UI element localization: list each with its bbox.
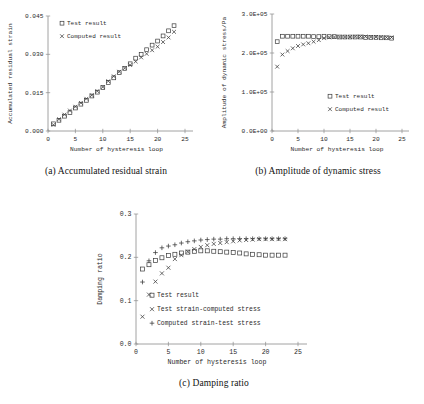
svg-text:3.0E+05: 3.0E+05 bbox=[242, 11, 268, 18]
svg-text:25: 25 bbox=[294, 349, 302, 356]
chart-c-svg: 0.00.10.20.30510152025Number of hysteres… bbox=[88, 196, 340, 378]
panel-accumulated-residual-strain: 0.0000.0150.0300.0450510152025Number of … bbox=[0, 0, 212, 190]
series-test-result bbox=[140, 249, 287, 271]
svg-text:Test strain-computed stress: Test strain-computed stress bbox=[157, 306, 261, 313]
svg-text:0: 0 bbox=[134, 349, 138, 356]
svg-text:0.1: 0.1 bbox=[120, 298, 132, 305]
svg-text:20: 20 bbox=[154, 136, 162, 143]
svg-text:0.3: 0.3 bbox=[120, 211, 132, 218]
svg-text:15: 15 bbox=[229, 349, 237, 356]
svg-text:0.045: 0.045 bbox=[25, 13, 44, 20]
svg-text:0.030: 0.030 bbox=[25, 51, 44, 58]
svg-text:Computed result: Computed result bbox=[335, 106, 389, 113]
svg-text:20: 20 bbox=[262, 349, 270, 356]
chart-b-svg: 0.0E+001.0E+052.0E+053.0E+050510152025Nu… bbox=[212, 0, 424, 166]
legend: Test resultTest strain-computed stressCo… bbox=[150, 292, 261, 327]
caption-c: (c) Damping ratio bbox=[88, 378, 340, 388]
svg-text:1.0E+05: 1.0E+05 bbox=[242, 89, 268, 96]
svg-text:Number of hysteresis loop: Number of hysteresis loop bbox=[291, 146, 384, 153]
svg-text:Number of hysteresis loop: Number of hysteresis loop bbox=[70, 146, 163, 153]
svg-text:0.015: 0.015 bbox=[25, 90, 44, 97]
panel-amplitude-dynamic-stress: 0.0E+001.0E+052.0E+053.0E+050510152025Nu… bbox=[212, 0, 424, 190]
series-computed-result bbox=[52, 30, 176, 127]
svg-text:0.0: 0.0 bbox=[120, 341, 132, 348]
svg-text:2.0E+05: 2.0E+05 bbox=[242, 50, 268, 57]
caption-b: (b) Amplitude of dynamic stress bbox=[212, 166, 424, 176]
svg-text:Accumulated residual strain: Accumulated residual strain bbox=[7, 23, 14, 124]
svg-text:5: 5 bbox=[166, 349, 170, 356]
plot-c: 0.00.10.20.30510152025Number of hysteres… bbox=[88, 196, 340, 404]
svg-text:5: 5 bbox=[74, 136, 78, 143]
svg-text:0.2: 0.2 bbox=[120, 254, 132, 261]
svg-text:25: 25 bbox=[181, 136, 189, 143]
svg-text:Damping ratio: Damping ratio bbox=[97, 253, 104, 304]
svg-text:10: 10 bbox=[197, 349, 205, 356]
svg-text:Test result: Test result bbox=[335, 93, 375, 100]
svg-text:Test result: Test result bbox=[157, 292, 199, 299]
svg-text:20: 20 bbox=[372, 136, 380, 143]
legend: Test resultComputed result bbox=[60, 20, 121, 40]
svg-text:Computed result: Computed result bbox=[67, 33, 121, 40]
series-computed-result bbox=[275, 35, 393, 69]
svg-text:10: 10 bbox=[320, 136, 328, 143]
svg-text:25: 25 bbox=[398, 136, 406, 143]
plot-b: 0.0E+001.0E+052.0E+053.0E+050510152025Nu… bbox=[212, 0, 424, 190]
svg-text:0.000: 0.000 bbox=[25, 128, 44, 135]
legend: Test resultComputed result bbox=[328, 93, 389, 113]
svg-text:Test result: Test result bbox=[67, 20, 107, 27]
svg-text:10: 10 bbox=[99, 136, 107, 143]
panel-damping-ratio: 0.00.10.20.30510152025Number of hysteres… bbox=[88, 196, 340, 404]
svg-text:15: 15 bbox=[126, 136, 134, 143]
plot-a: 0.0000.0150.0300.0450510152025Number of … bbox=[0, 0, 212, 190]
svg-text:Computed strain-test stress: Computed strain-test stress bbox=[157, 320, 261, 327]
caption-a: (a) Accumulated residual strain bbox=[0, 166, 212, 176]
svg-text:15: 15 bbox=[346, 136, 354, 143]
chart-a-svg: 0.0000.0150.0300.0450510152025Number of … bbox=[0, 0, 212, 166]
svg-text:0.0E+00: 0.0E+00 bbox=[242, 128, 268, 135]
series-test-result bbox=[275, 34, 393, 43]
svg-text:Number of hysteresis loop: Number of hysteresis loop bbox=[168, 359, 267, 366]
svg-text:0: 0 bbox=[270, 136, 274, 143]
svg-text:0: 0 bbox=[46, 136, 50, 143]
svg-text:Amplitude of dynamic stress/Pa: Amplitude of dynamic stress/Pa bbox=[221, 17, 228, 129]
svg-text:5: 5 bbox=[296, 136, 300, 143]
